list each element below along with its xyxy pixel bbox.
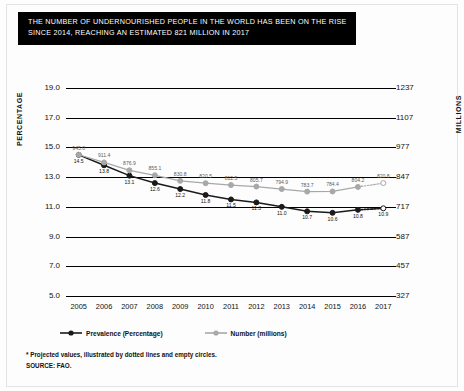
data-point-label: 13.8 — [89, 168, 119, 174]
gridline — [66, 147, 396, 148]
y-axis-tick-right: 457 — [396, 261, 436, 270]
y-axis-tick-right: 1237 — [396, 83, 436, 92]
data-point-label: 13.1 — [114, 179, 144, 185]
gridline — [66, 266, 396, 267]
legend-marker-icon — [60, 329, 82, 337]
legend-item[interactable]: Prevalence (Percentage) — [60, 329, 163, 337]
data-point-label: 10.9 — [368, 211, 398, 217]
y-axis-tick-right: 327 — [396, 291, 436, 300]
data-point-label: 911.4 — [89, 152, 119, 158]
footnote-source: SOURCE: FAO. — [26, 362, 71, 369]
data-point-label: 945.0 — [64, 145, 94, 151]
gridline — [66, 237, 396, 238]
data-point-label: 14.5 — [64, 158, 94, 164]
gridline — [66, 296, 396, 297]
gridline — [66, 118, 396, 119]
y-axis-tick-left: 15.0 — [26, 142, 60, 151]
y-axis-tick-left: 11.0 — [26, 202, 60, 211]
data-point-label: 820.8 — [368, 173, 398, 179]
chart-page: THE NUMBER OF UNDERNOURISHED PEOPLE IN T… — [0, 0, 464, 391]
y-axis-tick-left: 13.0 — [26, 172, 60, 181]
y-axis-title-right: MILLIONS — [455, 95, 462, 133]
footnote-projected: * Projected values, illustrated by dotte… — [26, 351, 217, 358]
y-axis-tick-right: 847 — [396, 172, 436, 181]
chart-title-banner: THE NUMBER OF UNDERNOURISHED PEOPLE IN T… — [18, 12, 356, 45]
legend-label: Number (millions) — [231, 330, 287, 337]
y-axis-tick-left: 7.0 — [26, 261, 60, 270]
y-axis-tick-left: 9.0 — [26, 232, 60, 241]
chart-title-line-2: SINCE 2014, REACHING AN ESTIMATED 821 MI… — [28, 28, 348, 39]
chart-legend: Prevalence (Percentage)Number (millions) — [60, 329, 287, 337]
y-axis-tick-left: 17.0 — [26, 113, 60, 122]
y-axis-tick-right: 1107 — [396, 113, 436, 122]
x-axis-tick: 2017 — [368, 302, 398, 311]
legend-item[interactable]: Number (millions) — [205, 329, 287, 337]
legend-label: Prevalence (Percentage) — [86, 330, 163, 337]
chart-title-line-1: THE NUMBER OF UNDERNOURISHED PEOPLE IN T… — [28, 17, 348, 28]
y-axis-tick-left: 5.0 — [26, 291, 60, 300]
y-axis-tick-right: 587 — [396, 232, 436, 241]
y-axis-tick-right: 977 — [396, 142, 436, 151]
legend-marker-icon — [205, 329, 227, 337]
gridline — [66, 88, 396, 89]
y-axis-title-left: PERCENTAGE — [16, 92, 23, 146]
y-axis-tick-right: 717 — [396, 202, 436, 211]
y-axis-tick-left: 19.0 — [26, 83, 60, 92]
